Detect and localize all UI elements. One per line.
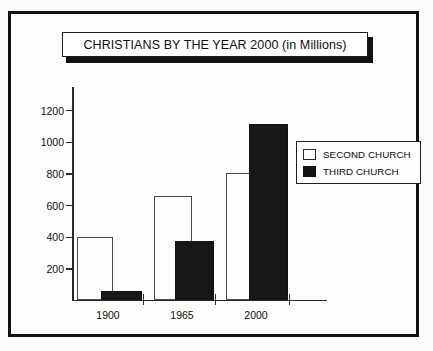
chart-page: CHRISTIANS BY THE YEAR 2000 (in Millions… bbox=[0, 0, 433, 351]
x-axis-tick-label: 1965 bbox=[170, 309, 193, 321]
y-axis-tick-label: 1000 bbox=[32, 136, 64, 148]
legend-item-third-church: THIRD CHURCH bbox=[303, 163, 420, 180]
y-axis-tick bbox=[66, 205, 73, 206]
bar-third-church-1965 bbox=[175, 241, 214, 300]
chart-legend: SECOND CHURCH THIRD CHURCH bbox=[296, 141, 421, 184]
x-axis-tick bbox=[289, 294, 290, 305]
y-axis-tick-label: 400 bbox=[32, 231, 64, 243]
legend-swatch-icon bbox=[303, 149, 316, 160]
y-axis-tick-label: 600 bbox=[32, 200, 64, 212]
y-axis-tick bbox=[66, 237, 73, 238]
bar-third-church-2000 bbox=[249, 124, 288, 300]
y-axis-tick bbox=[66, 142, 73, 143]
x-axis-tick-label: 1900 bbox=[96, 309, 119, 321]
legend-swatch-icon bbox=[303, 166, 316, 177]
legend-item-label: SECOND CHURCH bbox=[323, 149, 411, 160]
legend-item-second-church: SECOND CHURCH bbox=[303, 146, 420, 163]
legend-item-label: THIRD CHURCH bbox=[323, 166, 399, 177]
y-axis-tick-label: 800 bbox=[32, 168, 64, 180]
y-axis-tick-label: 200 bbox=[32, 263, 64, 275]
y-axis-tick bbox=[66, 268, 73, 269]
x-axis-tick-label: 2000 bbox=[244, 309, 267, 321]
x-axis-tick bbox=[143, 294, 144, 305]
bar-third-church-1900 bbox=[101, 291, 142, 301]
y-axis-tick bbox=[66, 173, 73, 174]
x-axis-tick bbox=[215, 294, 216, 305]
y-axis-tick-label: 1200 bbox=[32, 105, 64, 117]
y-axis-tick bbox=[66, 110, 73, 111]
